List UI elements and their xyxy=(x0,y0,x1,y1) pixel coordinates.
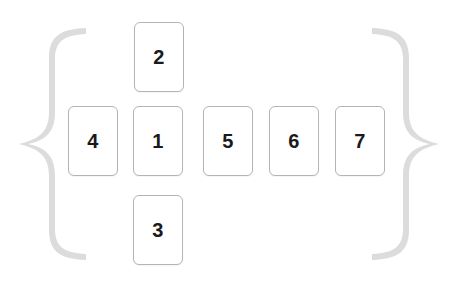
card-label: 3 xyxy=(152,220,163,240)
card-4[interactable]: 4 xyxy=(68,106,118,176)
card-3[interactable]: 3 xyxy=(133,195,183,265)
card-label: 2 xyxy=(153,47,164,67)
card-7[interactable]: 7 xyxy=(335,106,385,176)
card-label: 1 xyxy=(152,131,163,151)
diagram-canvas: 2 4 1 5 6 7 3 xyxy=(0,0,457,281)
card-label: 4 xyxy=(87,131,98,151)
card-label: 6 xyxy=(288,131,299,151)
card-2[interactable]: 2 xyxy=(134,22,184,92)
card-6[interactable]: 6 xyxy=(269,106,319,176)
card-label: 7 xyxy=(354,131,365,151)
card-5[interactable]: 5 xyxy=(203,106,253,176)
card-1[interactable]: 1 xyxy=(133,106,183,176)
card-label: 5 xyxy=(222,131,233,151)
